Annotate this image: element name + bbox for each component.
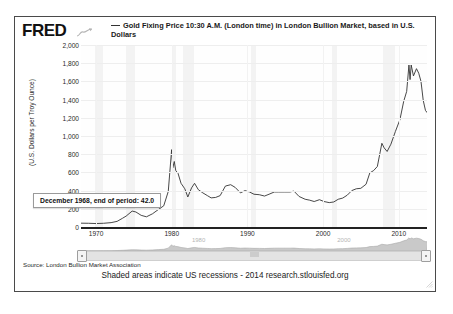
x-axis-line bbox=[81, 227, 427, 229]
gridline bbox=[81, 63, 427, 64]
y-tick-label: 1,400 bbox=[35, 96, 79, 103]
chart-footer: Source: London Bullion Market Associatio… bbox=[15, 259, 435, 289]
gridline bbox=[81, 100, 427, 101]
y-tick-label: 1,800 bbox=[35, 60, 79, 67]
gridline bbox=[81, 209, 427, 210]
fred-chart-panel: FRED Gold Fixing Price 10:30 A.M. (Londo… bbox=[14, 16, 436, 292]
gridline bbox=[81, 172, 427, 173]
vertical-gridline bbox=[172, 45, 173, 227]
navigator-label-2000: 2000 bbox=[337, 237, 350, 243]
y-tick-label: 1,200 bbox=[35, 114, 79, 121]
range-navigator[interactable]: 1980 2000 bbox=[81, 235, 427, 261]
navigator-mini-chart bbox=[81, 235, 427, 251]
screenshot-root: FRED Gold Fixing Price 10:30 A.M. (Londo… bbox=[0, 0, 453, 314]
chart-legend[interactable]: Gold Fixing Price 10:30 A.M. (London tim… bbox=[111, 21, 421, 40]
resize-grip-icon[interactable] bbox=[426, 281, 433, 288]
y-tick-label: 2,000 bbox=[35, 42, 79, 49]
data-tooltip: December 1968, end of period: 42.0 bbox=[33, 193, 161, 208]
y-tick-label: 1,600 bbox=[35, 78, 79, 85]
source-text: Source: London Bullion Market Associatio… bbox=[23, 261, 141, 268]
legend-label: Gold Fixing Price 10:30 A.M. (London tim… bbox=[111, 21, 415, 39]
recession-note: Shaded areas indicate US recessions - 20… bbox=[15, 271, 435, 280]
vertical-gridline bbox=[399, 45, 400, 227]
y-tick-label: 0 bbox=[35, 224, 79, 231]
gridline bbox=[81, 191, 427, 192]
gridline bbox=[81, 45, 427, 46]
gridline bbox=[81, 81, 427, 82]
gridline bbox=[81, 136, 427, 137]
y-tick-label: 1,000 bbox=[35, 133, 79, 140]
y-tick-label: 600 bbox=[35, 169, 79, 176]
squiggle-chart-icon bbox=[77, 28, 93, 38]
fred-logo[interactable]: FRED bbox=[22, 21, 66, 41]
vertical-gridline bbox=[323, 45, 324, 227]
plot-region: (U.S. Dollars per Troy Ounce) 2,0001,800… bbox=[15, 45, 435, 257]
gridline bbox=[81, 118, 427, 119]
y-tick-label: 800 bbox=[35, 151, 79, 158]
navigator-series bbox=[81, 235, 427, 251]
gridline bbox=[81, 154, 427, 155]
legend-line-icon bbox=[111, 25, 120, 26]
navigator-label-1980: 1980 bbox=[192, 237, 205, 243]
vertical-gridline bbox=[247, 45, 248, 227]
navigator-area bbox=[81, 238, 427, 251]
nav-grip-icon[interactable] bbox=[250, 252, 259, 257]
